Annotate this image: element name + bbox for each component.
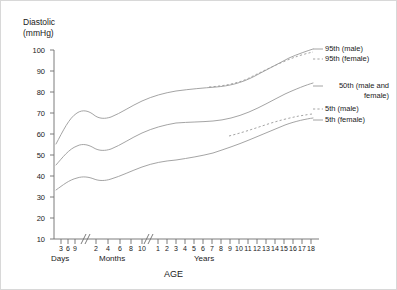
series-5th-female [56, 118, 313, 190]
legend-leader-lines [313, 49, 323, 120]
x-tick-label-months-2: 2 [90, 245, 102, 252]
legend-label-5th-male: 5th (male) [325, 104, 359, 114]
x-group-label-months: Months [99, 254, 125, 263]
legend-label-5th-female: 5th (female) [325, 115, 365, 125]
y-tick-label-100: 100 [15, 46, 45, 55]
x-group-label-years: Years [194, 254, 214, 263]
legend-label-50th-male-and-female: 50th (male and female) [325, 81, 389, 100]
y-tick-label-50: 50 [15, 151, 45, 160]
x-axis-ticks-years [158, 239, 311, 244]
series-95th-female [209, 52, 313, 87]
x-axis-ticks-days [61, 239, 75, 244]
legend-label-95th-male: 95th (male) [325, 44, 363, 54]
chart-figure: Diastolic (mmHg) 100 90 80 70 60 50 40 3… [0, 0, 397, 290]
y-tick-label-20: 20 [15, 214, 45, 223]
y-tick-label-70: 70 [15, 109, 45, 118]
series-50th-male-and-female [56, 83, 313, 165]
y-axis-title: Diastolic (mmHg) [23, 17, 55, 38]
y-tick-label-60: 60 [15, 130, 45, 139]
x-axis-ticks-months [96, 239, 142, 244]
series-5th-male [229, 114, 313, 136]
x-tick-label-days-9: 9 [69, 245, 81, 252]
y-tick-label-40: 40 [15, 172, 45, 181]
x-tick-label-months-4: 4 [102, 245, 114, 252]
x-tick-label-years-18: 18 [304, 245, 318, 252]
x-group-label-days: Days [51, 254, 69, 263]
x-tick-label-months-10: 10 [135, 245, 149, 252]
y-tick-label-30: 30 [15, 193, 45, 202]
y-tick-label-80: 80 [15, 88, 45, 97]
x-axis-title: AGE [164, 269, 183, 279]
legend-label-95th-female: 95th (female) [325, 54, 369, 64]
y-tick-label-90: 90 [15, 67, 45, 76]
y-axis-ticks [50, 50, 54, 239]
y-tick-label-10: 10 [15, 235, 45, 244]
